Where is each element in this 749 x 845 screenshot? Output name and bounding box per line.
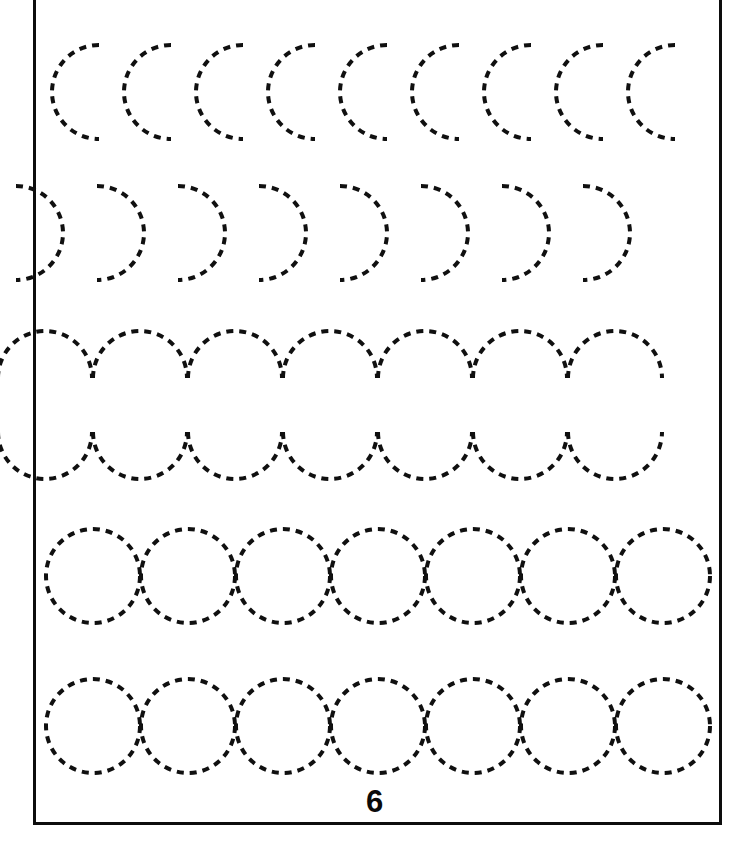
trace-shape-arc-top-half	[378, 331, 472, 378]
trace-shape-circle	[426, 529, 520, 623]
trace-shape-circle	[46, 529, 140, 623]
trace-shape-arc-right-half	[178, 186, 225, 280]
trace-shape-arc-left-half	[628, 45, 675, 139]
trace-shape-circle	[46, 679, 140, 773]
trace-shape-arc-bottom-half	[568, 432, 662, 479]
tracing-row	[0, 325, 749, 384]
trace-shape-circle	[521, 529, 615, 623]
tracing-row-shapes	[0, 523, 749, 629]
trace-shape-arc-top-half	[0, 331, 92, 378]
trace-shape-arc-left-half	[124, 45, 171, 139]
trace-shape-arc-left-half	[268, 45, 315, 139]
trace-shape-circle	[521, 679, 615, 773]
tracing-row-shapes	[0, 39, 749, 145]
trace-shape-circle	[331, 679, 425, 773]
trace-shape-arc-left-half	[196, 45, 243, 139]
trace-shape-arc-top-half	[283, 331, 377, 378]
trace-shape-arc-right-half	[16, 186, 63, 280]
trace-shape-circle	[616, 679, 710, 773]
trace-shape-arc-bottom-half	[283, 432, 377, 479]
trace-shape-arc-top-half	[188, 331, 282, 378]
trace-shape-circle	[236, 529, 330, 623]
trace-shape-arc-top-half	[473, 331, 567, 378]
trace-shape-circle	[236, 679, 330, 773]
trace-shape-arc-bottom-half	[473, 432, 567, 479]
tracing-row-shapes	[0, 180, 749, 286]
trace-shape-arc-bottom-half	[0, 432, 92, 479]
trace-shape-arc-top-half	[93, 331, 187, 378]
tracing-row-shapes	[0, 325, 749, 384]
trace-shape-circle	[616, 529, 710, 623]
trace-shape-arc-right-half	[502, 186, 549, 280]
trace-shape-arc-right-half	[421, 186, 468, 280]
trace-shape-arc-left-half	[412, 45, 459, 139]
tracing-row	[0, 673, 749, 779]
trace-shape-arc-bottom-half	[93, 432, 187, 479]
trace-shape-arc-top-half	[568, 331, 662, 378]
trace-shape-arc-bottom-half	[188, 432, 282, 479]
trace-shape-arc-left-half	[556, 45, 603, 139]
trace-shape-arc-bottom-half	[378, 432, 472, 479]
page-number: 6	[0, 786, 749, 817]
tracing-row	[0, 39, 749, 145]
trace-shape-arc-right-half	[259, 186, 306, 280]
worksheet-page: 6	[0, 0, 749, 845]
trace-shape-circle	[426, 679, 520, 773]
trace-shape-arc-right-half	[583, 186, 630, 280]
trace-shape-arc-right-half	[340, 186, 387, 280]
tracing-row-shapes	[0, 426, 749, 485]
trace-shape-arc-right-half	[97, 186, 144, 280]
trace-shape-arc-left-half	[52, 45, 99, 139]
trace-shape-arc-left-half	[484, 45, 531, 139]
trace-shape-circle	[141, 679, 235, 773]
tracing-row	[0, 523, 749, 629]
trace-shape-arc-left-half	[340, 45, 387, 139]
tracing-row	[0, 180, 749, 286]
tracing-row	[0, 426, 749, 485]
trace-shape-circle	[141, 529, 235, 623]
tracing-row-shapes	[0, 673, 749, 779]
trace-shape-circle	[331, 529, 425, 623]
